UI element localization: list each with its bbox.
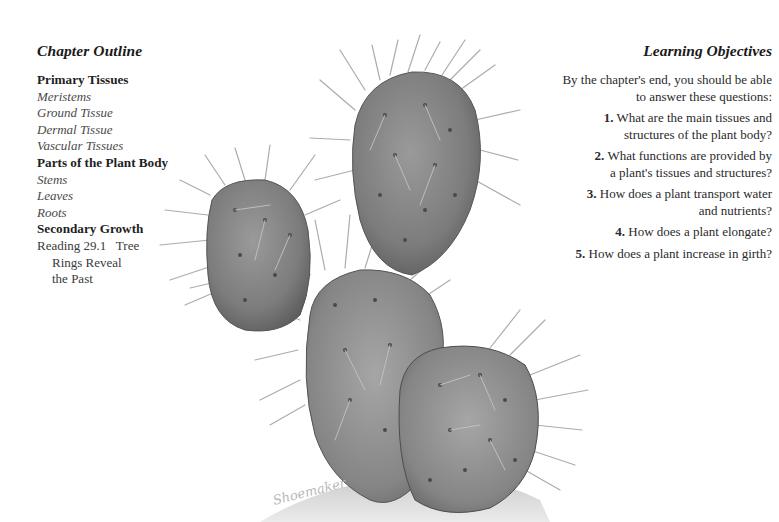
question-text-line-1: What functions are provided by bbox=[607, 148, 772, 163]
question-text-line-2: structures of the plant body? bbox=[522, 127, 772, 144]
question-number: 5. bbox=[576, 246, 586, 261]
learning-objectives-title: Learning Objectives bbox=[522, 42, 772, 60]
objective-question-3: 3. How does a plant transport water and … bbox=[522, 186, 772, 219]
intro-line-1: By the chapter's end, you should be able bbox=[562, 72, 772, 87]
question-text-line-1: What are the main tissues and bbox=[616, 110, 772, 125]
question-text-line-1: How does a plant transport water bbox=[600, 186, 772, 201]
objective-question-4: 4. How does a plant elongate? bbox=[522, 224, 772, 241]
question-number: 4. bbox=[615, 224, 625, 239]
question-text-line-1: How does a plant increase in girth? bbox=[589, 246, 772, 261]
learning-objectives: Learning Objectives By the chapter's end… bbox=[522, 42, 772, 267]
objective-question-1: 1. What are the main tissues and structu… bbox=[522, 110, 772, 143]
objective-question-5: 5. How does a plant increase in girth? bbox=[522, 246, 772, 263]
reading-line-1: Reading 29.1 Tree bbox=[37, 238, 139, 253]
question-number: 1. bbox=[604, 110, 614, 125]
question-number: 2. bbox=[595, 148, 605, 163]
question-number: 3. bbox=[587, 186, 597, 201]
objective-question-2: 2. What functions are provided by a plan… bbox=[522, 148, 772, 181]
question-text-line-2: a plant's tissues and structures? bbox=[522, 165, 772, 182]
intro-line-2: to answer these questions: bbox=[636, 89, 772, 104]
question-text-line-1: How does a plant elongate? bbox=[628, 224, 772, 239]
question-text-line-2: and nutrients? bbox=[522, 203, 772, 220]
objectives-intro: By the chapter's end, you should be able… bbox=[522, 72, 772, 105]
